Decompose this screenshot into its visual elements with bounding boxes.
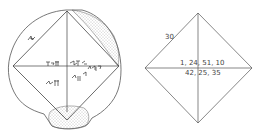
diagonal-value-label: 1, 24, 51, 10 <box>180 59 225 67</box>
tablet-drawing <box>8 10 121 129</box>
diagonal-length-label: 42, 25, 35 <box>185 69 221 77</box>
damaged-area-bottom <box>49 106 89 129</box>
side-length-label: 30 <box>165 33 174 41</box>
transcription-diagram: 30 1, 24, 51, 10 42, 25, 35 <box>145 13 252 123</box>
figure: 30 1, 24, 51, 10 42, 25, 35 <box>0 0 254 134</box>
